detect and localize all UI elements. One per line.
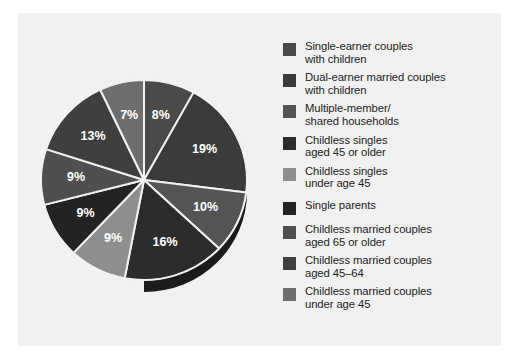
- pie-slice-value-label: 13%: [80, 129, 105, 143]
- pie-slice-value-label: 9%: [76, 206, 94, 220]
- pie-slice-value-label: 9%: [67, 170, 85, 184]
- legend-item-label: Childless singles aged 45 or older: [305, 134, 387, 159]
- legend-item[interactable]: Childless singles aged 45 or older: [283, 134, 498, 159]
- legend-swatch-multiple-member-shared-households: [283, 105, 296, 118]
- legend-swatch-single-earner-couples-with-children: [283, 43, 296, 56]
- chart-screenshot: 8%19%10%16%9%9%9%13%7% Single-earner cou…: [0, 0, 517, 360]
- legend-item[interactable]: Multiple-member/ shared households: [283, 102, 498, 127]
- legend-item-label: Dual-earner married couples with childre…: [305, 71, 445, 96]
- legend-item-label: Single-earner couples with children: [305, 40, 413, 65]
- pie-chart-svg: 8%19%10%16%9%9%9%13%7%: [30, 60, 265, 300]
- pie-slice-value-label: 9%: [104, 231, 122, 245]
- legend-item-label: Single parents: [305, 199, 376, 212]
- legend-swatch-childless-married-couples-45-64: [283, 257, 296, 270]
- legend-item[interactable]: Dual-earner married couples with childre…: [283, 71, 498, 96]
- pie-slice-value-label: 10%: [193, 200, 218, 214]
- legend-swatch-childless-married-couples-65-or-older: [283, 226, 296, 239]
- pie-slice-value-label: 8%: [152, 108, 170, 122]
- pie-slice-value-label: 16%: [152, 235, 177, 249]
- legend-item-label: Multiple-member/ shared households: [305, 102, 399, 127]
- legend-item[interactable]: Childless married couples aged 65 or old…: [283, 223, 498, 248]
- legend-swatch-childless-singles-under-45: [283, 168, 296, 181]
- pie-slice-value-label: 7%: [120, 108, 138, 122]
- legend-swatch-childless-singles-45-or-older: [283, 137, 296, 150]
- legend-swatch-dual-earner-married-couples-with-children: [283, 74, 296, 87]
- pie-slice-value-label: 19%: [192, 142, 217, 156]
- legend-item[interactable]: Childless married couples under age 45: [283, 285, 498, 310]
- legend-item[interactable]: Single parents: [283, 199, 498, 217]
- legend-item-label: Childless married couples aged 65 or old…: [305, 223, 432, 248]
- legend-item-label: Childless married couples aged 45–64: [305, 254, 432, 279]
- legend-item-label: Childless married couples under age 45: [305, 285, 432, 310]
- legend-item[interactable]: Childless married couples aged 45–64: [283, 254, 498, 279]
- legend-swatch-single-parents: [283, 202, 296, 215]
- pie-chart: 8%19%10%16%9%9%9%13%7%: [30, 60, 265, 300]
- legend-swatch-childless-married-couples-under-45: [283, 288, 296, 301]
- legend-item[interactable]: Childless singles under age 45: [283, 165, 498, 190]
- chart-legend: Single-earner couples with childrenDual-…: [283, 40, 498, 317]
- legend-item[interactable]: Single-earner couples with children: [283, 40, 498, 65]
- legend-item-label: Childless singles under age 45: [305, 165, 387, 190]
